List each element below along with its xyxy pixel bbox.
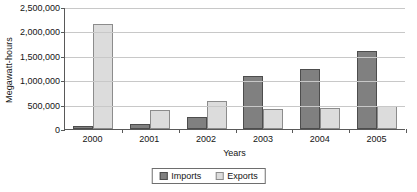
- y-axis-tick-label: 0: [55, 126, 60, 135]
- bar-exports-2005[interactable]: [377, 106, 397, 129]
- bar-exports-2003[interactable]: [263, 109, 283, 129]
- y-axis-tickmark: [61, 57, 65, 58]
- bar-group: [348, 8, 405, 129]
- exports-swatch-icon: [215, 172, 223, 180]
- gridline: [65, 81, 405, 82]
- bar-exports-2004[interactable]: [320, 108, 340, 129]
- x-axis-tick-label: 2005: [348, 133, 405, 147]
- y-axis-tickmark: [61, 32, 65, 33]
- y-axis-tickmark: [61, 8, 65, 9]
- bar-pair: [130, 110, 170, 129]
- bar-imports-2003[interactable]: [243, 76, 263, 129]
- bar-imports-2000[interactable]: [73, 126, 93, 129]
- bar-group: [235, 8, 292, 129]
- y-axis-tick-label: 2,000,000: [20, 28, 60, 37]
- x-axis-tick-labels: 200020012002200320042005: [64, 133, 405, 147]
- bar-imports-2004[interactable]: [300, 69, 320, 129]
- gridline: [65, 8, 405, 9]
- bar-imports-2002[interactable]: [187, 117, 207, 129]
- bar-imports-2001[interactable]: [130, 124, 150, 129]
- y-axis-tickmark: [61, 130, 65, 131]
- bar-group: [65, 8, 122, 129]
- legend-item-imports[interactable]: Imports: [159, 171, 201, 181]
- y-axis-tickmark: [61, 81, 65, 82]
- gridline: [65, 32, 405, 33]
- y-axis-title-text: Megawatt-hours: [4, 37, 14, 103]
- legend-item-label: Exports: [227, 171, 258, 181]
- bar-group: [178, 8, 235, 129]
- x-axis-tick-label: 2001: [121, 133, 178, 147]
- bar-pair: [357, 51, 397, 129]
- bar-chart-figure: Megawatt-hours 0500,0001,000,0001,500,00…: [0, 0, 417, 192]
- x-axis-tick-label: 2002: [178, 133, 235, 147]
- x-axis-tick-label: 2004: [291, 133, 348, 147]
- bar-group: [122, 8, 179, 129]
- y-axis-tick-label: 500,000: [27, 101, 60, 110]
- legend-item-label: Imports: [171, 171, 201, 181]
- chart-legend: ImportsExports: [151, 168, 266, 184]
- legend-item-exports[interactable]: Exports: [215, 171, 258, 181]
- x-axis-tickmark: [406, 129, 407, 133]
- x-axis-tick-label: 2000: [64, 133, 121, 147]
- y-axis-tick-labels: 0500,0001,000,0001,500,0002,000,0002,500…: [16, 8, 62, 130]
- y-axis-tickmark: [61, 106, 65, 107]
- x-axis-tick-label: 2003: [234, 133, 291, 147]
- bar-pair: [243, 76, 283, 129]
- bar-groups: [65, 8, 405, 129]
- bar-group: [292, 8, 349, 129]
- imports-swatch-icon: [159, 172, 167, 180]
- y-axis-tick-label: 1,500,000: [20, 52, 60, 61]
- plot-area: [64, 8, 405, 130]
- bar-exports-2001[interactable]: [150, 110, 170, 129]
- bar-pair: [73, 24, 113, 129]
- bar-exports-2000[interactable]: [93, 24, 113, 129]
- gridline: [65, 106, 405, 107]
- y-axis-tick-label: 1,000,000: [20, 77, 60, 86]
- bar-imports-2005[interactable]: [357, 51, 377, 129]
- x-axis-title: Years: [64, 148, 405, 158]
- y-axis-tick-label: 2,500,000: [20, 4, 60, 13]
- gridline: [65, 57, 405, 58]
- bar-pair: [300, 69, 340, 129]
